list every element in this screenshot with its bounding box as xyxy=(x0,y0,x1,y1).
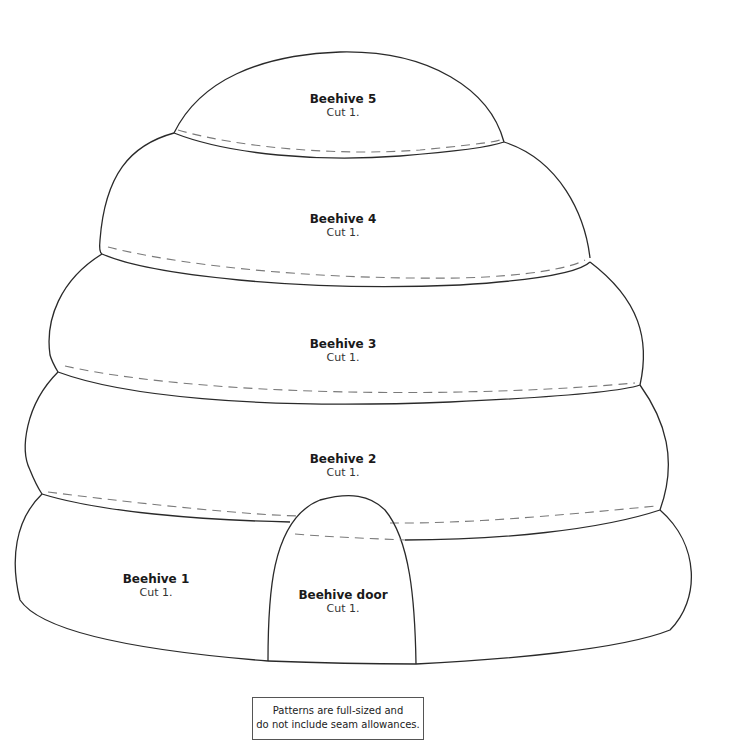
piece-title: Beehive 2 xyxy=(310,452,377,466)
piece-cut-instruction: Cut 1. xyxy=(123,586,190,599)
seam-allowance-note: Patterns are full-sized and do not inclu… xyxy=(252,697,424,740)
label-beehive-4: Beehive 4 Cut 1. xyxy=(310,212,377,239)
piece-title: Beehive 5 xyxy=(310,92,377,106)
piece-beehive-1 xyxy=(15,494,691,664)
piece-beehive-door xyxy=(268,496,416,664)
note-line-1: Patterns are full-sized and xyxy=(253,704,423,718)
piece-cut-instruction: Cut 1. xyxy=(298,602,387,615)
piece-title: Beehive door xyxy=(298,588,387,602)
piece-title: Beehive 4 xyxy=(310,212,377,226)
piece-beehive-4 xyxy=(100,133,590,287)
piece-cut-instruction: Cut 1. xyxy=(310,466,377,479)
label-beehive-door: Beehive door Cut 1. xyxy=(298,588,387,615)
label-beehive-3: Beehive 3 Cut 1. xyxy=(310,337,377,364)
piece-cut-instruction: Cut 1. xyxy=(310,226,377,239)
piece-cut-instruction: Cut 1. xyxy=(310,351,377,364)
piece-cut-instruction: Cut 1. xyxy=(310,106,377,119)
piece-title: Beehive 3 xyxy=(310,337,377,351)
label-beehive-5: Beehive 5 Cut 1. xyxy=(310,92,377,119)
note-line-2: do not include seam allowances. xyxy=(253,718,423,732)
label-beehive-1: Beehive 1 Cut 1. xyxy=(123,572,190,599)
piece-title: Beehive 1 xyxy=(123,572,190,586)
label-beehive-2: Beehive 2 Cut 1. xyxy=(310,452,377,479)
